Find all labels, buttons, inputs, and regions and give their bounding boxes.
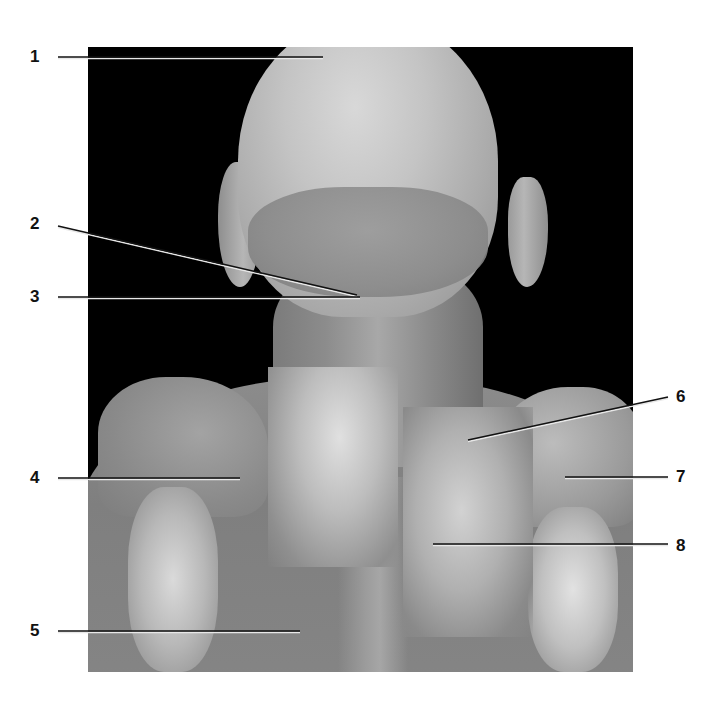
right-ear <box>508 177 548 287</box>
left-scapular-region <box>128 487 218 672</box>
callout-label-8: 8 <box>676 537 685 554</box>
occipital-region <box>248 187 488 297</box>
callout-label-3: 3 <box>30 288 39 305</box>
callout-label-1: 1 <box>30 48 39 65</box>
callout-label-6: 6 <box>676 388 685 405</box>
callout-label-4: 4 <box>30 469 39 486</box>
dissection-photo <box>88 47 633 672</box>
left-trapezius-aponeurosis <box>268 367 398 567</box>
callout-label-5: 5 <box>30 622 39 639</box>
right-scapular-region <box>528 507 618 672</box>
right-trapezius-region <box>403 407 533 637</box>
callout-label-7: 7 <box>676 468 685 485</box>
callout-label-2: 2 <box>30 215 39 232</box>
